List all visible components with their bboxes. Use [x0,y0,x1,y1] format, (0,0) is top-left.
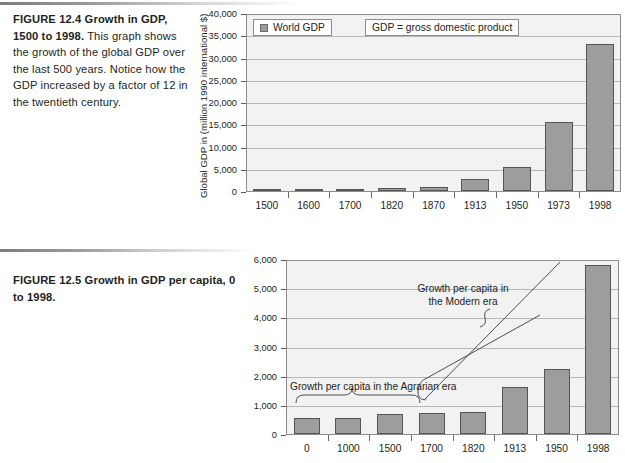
gridline [247,103,620,104]
figure-12-4-caption: FIGURE 12.4 Growth in GDP, 1500 to 1998.… [13,11,193,111]
x-tick-label: 1950 [536,443,578,454]
chart-gdp-growth: Global GDP in (million 1990 internationa… [190,6,625,221]
y-tick-mark [241,103,246,104]
x-tick-label: 1870 [413,200,455,211]
y-tick-mark [241,148,246,149]
gridline [247,81,620,82]
x-tick-mark [494,435,495,441]
x-tick-mark [496,192,497,198]
y-tick-mark [281,289,286,290]
gridline [247,14,620,15]
x-tick-mark [288,192,289,198]
legend-swatch-icon [260,24,268,32]
x-tick-label: 1700 [411,443,453,454]
bar [294,418,320,434]
chart-gdp-per-capita: 01,0002,0003,0004,0005,0006,000 01000150… [240,255,625,463]
bar [461,179,489,191]
bar [544,369,570,434]
chart2-modern-era-annotation: Growth per capita in the Modern era [408,282,518,309]
x-tick-mark [411,435,412,441]
y-tick-label: 35,000 [190,31,237,41]
x-tick-mark [328,435,329,441]
y-tick-mark [281,377,286,378]
figure-12-5-caption-lead: FIGURE 12.5 Growth in GDP per capita, 0 … [13,274,235,303]
y-tick-label: 5,000 [240,284,277,294]
bar [545,122,573,191]
x-tick-mark [413,192,414,198]
y-tick-mark [241,192,246,193]
y-tick-label: 0 [240,430,277,440]
bar [253,189,281,191]
y-tick-label: 15,000 [190,120,237,130]
x-tick-mark [454,192,455,198]
x-tick-mark [369,435,370,441]
x-tick-label: 1973 [538,200,580,211]
chart1-note-gdp-definition: GDP = gross domestic product [365,19,519,36]
y-tick-mark [281,406,286,407]
bar [460,412,486,434]
gridline [287,260,618,261]
y-tick-mark [241,81,246,82]
y-tick-mark [241,125,246,126]
gridline [287,318,618,319]
x-tick-label: 1820 [453,443,495,454]
gridline [287,348,618,349]
bar [586,44,614,191]
bar [377,414,403,434]
bar [295,189,323,191]
y-tick-label: 1,000 [240,401,277,411]
y-tick-mark [241,170,246,171]
x-tick-mark [538,192,539,198]
x-tick-label: 1950 [496,200,538,211]
x-tick-label: 1820 [371,200,413,211]
x-tick-label: 1600 [288,200,330,211]
bar [378,188,406,191]
y-tick-label: 40,000 [190,9,237,19]
y-tick-label: 2,000 [240,372,277,382]
x-tick-label: 1700 [329,200,371,211]
y-tick-mark [241,36,246,37]
x-tick-mark [371,192,372,198]
x-tick-label: 1000 [328,443,370,454]
y-tick-mark [281,260,286,261]
bar [336,189,364,191]
y-tick-label: 5,000 [190,165,237,175]
bar [585,265,611,434]
x-tick-label: 0 [286,443,328,454]
y-tick-label: 25,000 [190,76,237,86]
x-tick-mark [577,435,578,441]
bar [502,387,528,434]
y-tick-mark [241,14,246,15]
page-divider-top [0,2,300,5]
y-tick-mark [281,348,286,349]
x-tick-mark [579,192,580,198]
figure-12-5-caption: FIGURE 12.5 Growth in GDP per capita, 0 … [13,272,243,305]
y-tick-label: 30,000 [190,54,237,64]
x-tick-label: 1998 [579,200,621,211]
x-tick-mark [453,435,454,441]
x-tick-label: 1998 [577,443,619,454]
gridline [247,59,620,60]
x-tick-label: 1913 [454,200,496,211]
y-tick-label: 0 [190,187,237,197]
bar [420,187,448,191]
y-tick-label: 6,000 [240,255,277,265]
y-tick-label: 3,000 [240,343,277,353]
chart1-note-label: GDP = gross domestic product [372,22,512,33]
x-tick-label: 1913 [494,443,536,454]
gridline [247,36,620,37]
y-tick-mark [281,435,286,436]
bar [503,167,531,191]
y-tick-label: 4,000 [240,313,277,323]
y-tick-mark [281,318,286,319]
chart1-legend-world-gdp[interactable]: World GDP [253,19,332,36]
y-tick-label: 20,000 [190,98,237,108]
y-tick-mark [241,59,246,60]
chart1-legend-label: World GDP [273,22,325,33]
bar [419,413,445,434]
x-tick-label: 1500 [246,200,288,211]
y-tick-label: 10,000 [190,143,237,153]
page-divider-middle [0,249,255,252]
bar [335,418,361,434]
chart2-agrarian-era-annotation: Growth per capita in the Agrarian era [290,380,457,393]
